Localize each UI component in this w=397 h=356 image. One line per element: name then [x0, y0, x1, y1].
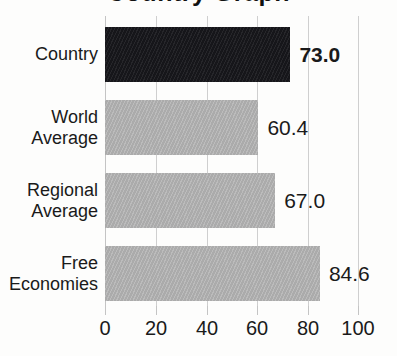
bar-regional-average	[105, 173, 275, 228]
x-tick-label-80: 80	[297, 317, 319, 340]
category-label-line: Regional	[27, 180, 98, 201]
bar-free-economies	[105, 246, 320, 301]
bar-country	[105, 27, 290, 82]
category-label-line: Free	[61, 253, 98, 274]
value-label-world-average: 60.4	[258, 100, 308, 155]
category-label-line: Average	[31, 201, 98, 222]
bar-world-average	[105, 100, 258, 155]
category-label-line: World	[51, 107, 98, 128]
value-label-free-economies: 84.6	[320, 246, 370, 301]
x-axis: 0 20 40 60 80 100	[105, 306, 359, 352]
bar-row-world-average: World Average 60.4	[105, 100, 359, 155]
bar-row-regional-average: Regional Average 67.0	[105, 173, 359, 228]
x-tick-label-100: 100	[341, 317, 374, 340]
category-label-line: Country	[35, 44, 98, 65]
bar-chart: Country Graph Country 73.0 World Average…	[0, 0, 397, 356]
x-tick-100	[358, 306, 359, 315]
value-label-regional-average: 67.0	[275, 173, 325, 228]
x-tick-label-20: 20	[145, 317, 167, 340]
x-tick-label-60: 60	[246, 317, 268, 340]
value-label-country: 73.0	[290, 27, 340, 82]
category-label-line: Economies	[9, 274, 98, 295]
x-tick-label-0: 0	[99, 317, 110, 340]
chart-title: Country Graph	[0, 0, 397, 7]
plot-area: Country 73.0 World Average 60.4 Regional…	[105, 16, 359, 306]
category-label-free-economies: Free Economies	[7, 246, 105, 301]
category-label-line: Average	[31, 128, 98, 149]
bar-row-country: Country 73.0	[105, 27, 359, 82]
category-label-country: Country	[7, 27, 105, 82]
x-tick-0	[105, 306, 106, 315]
category-label-world-average: World Average	[7, 100, 105, 155]
x-tick-20	[156, 306, 157, 315]
x-tick-40	[207, 306, 208, 315]
x-tick-60	[257, 306, 258, 315]
category-label-regional-average: Regional Average	[7, 173, 105, 228]
bar-row-free-economies: Free Economies 84.6	[105, 246, 359, 301]
x-tick-80	[308, 306, 309, 315]
x-tick-label-40: 40	[196, 317, 218, 340]
